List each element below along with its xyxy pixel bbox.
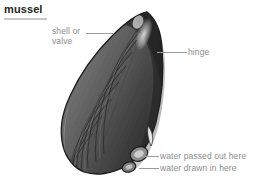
label-water-drawn-in-here: water drawn in here <box>160 163 237 173</box>
leader-line-shell-or-valve <box>86 33 113 34</box>
diagram-page: mussel <box>0 0 264 178</box>
label-water-passed-out-here: water passed out here <box>160 151 246 161</box>
label-hinge: hinge <box>188 47 209 57</box>
leader-line-hinge <box>157 52 187 53</box>
leader-line-water-passed-out-here <box>142 156 159 157</box>
leader-line-water-drawn-in-here <box>139 168 159 169</box>
label-shell-or-valve: shell or valve <box>52 26 80 46</box>
title-underline-rule <box>4 18 47 20</box>
